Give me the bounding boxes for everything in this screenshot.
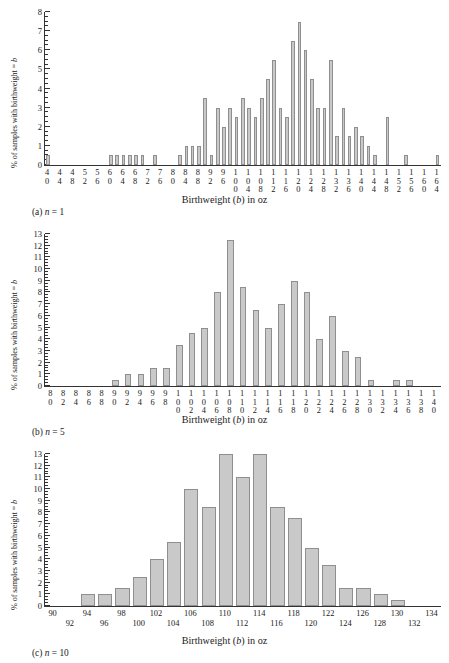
x-tick-label: 130130 <box>388 609 405 628</box>
bar <box>216 108 220 165</box>
bar <box>115 588 129 606</box>
bar <box>304 292 311 386</box>
x-tick-label: 112112 <box>233 609 250 628</box>
bar <box>373 155 377 165</box>
bar-slot <box>96 234 109 386</box>
x-tick-label: 9 8 <box>159 390 172 416</box>
y-tick-label: 1 <box>38 142 42 151</box>
bar-slot <box>114 454 131 606</box>
bar-slot <box>339 234 352 386</box>
bar-slot <box>428 234 441 386</box>
y-tick-label: 2 <box>38 358 42 367</box>
y-tick-label: 11 <box>34 253 42 262</box>
bar <box>291 41 295 165</box>
caption-c: (c) n = 10 <box>32 648 69 658</box>
bar-slot <box>166 454 183 606</box>
bar <box>185 146 189 165</box>
bar <box>178 155 182 165</box>
y-tick-label: 5 <box>38 323 42 332</box>
x-tick-label: 116116 <box>268 609 285 628</box>
bar <box>219 454 233 606</box>
x-tick-label: 118118 <box>285 609 302 628</box>
y-tick-label: 1 <box>38 370 42 379</box>
x-tick-label: 102102 <box>147 609 164 628</box>
x-tick-label: 9 4 <box>133 390 146 416</box>
bar-slot <box>200 454 217 606</box>
bar <box>335 136 339 165</box>
x-tick-label: 134134 <box>423 609 440 628</box>
panel-b: % of samples with birthweight = b 012345… <box>0 222 449 442</box>
bar <box>189 333 196 386</box>
bar <box>247 108 251 165</box>
y-tick-label: 8 <box>38 508 42 517</box>
y-tick-label: 5 <box>38 65 42 74</box>
bar <box>254 117 258 165</box>
bar-slot <box>338 454 355 606</box>
bar <box>360 136 364 165</box>
bar <box>236 477 250 606</box>
x-axis-labels-c: 9090929294949696989810010010210210410410… <box>44 609 440 628</box>
bar <box>368 380 375 386</box>
bar-slot <box>301 234 314 386</box>
bar-slot <box>275 234 288 386</box>
x-tick-label: 106106 <box>182 609 199 628</box>
x-tick-label: 1 3 2 <box>376 390 389 416</box>
x-tick-label: 1 1 2 <box>249 390 262 416</box>
y-tick-label: 6 <box>38 312 42 321</box>
bar-slot <box>390 234 403 386</box>
y-tick-label: 0 <box>38 602 42 611</box>
y-tick-label: 0 <box>38 382 42 391</box>
bar-slot <box>97 454 114 606</box>
x-tick-label: 1 0 4 <box>197 390 210 416</box>
x-tick-label: 1 1 8 <box>287 390 300 416</box>
bar <box>404 155 408 165</box>
x-tick-label: 1 2 8 <box>351 390 364 416</box>
bar <box>342 108 346 165</box>
bar <box>310 79 314 165</box>
y-tick-label: 8 <box>38 8 42 17</box>
bar-slot <box>355 454 372 606</box>
x-tick-label: 9494 <box>78 609 95 628</box>
bar <box>393 380 400 386</box>
bar <box>279 108 283 165</box>
bar <box>222 127 226 165</box>
y-tick-label: 13 <box>33 230 42 239</box>
x-tick-label: 9292 <box>61 609 78 628</box>
x-tick-label: 8 4 <box>70 390 83 416</box>
bar <box>322 565 336 606</box>
x-tick-label: 1 4 0 <box>427 390 440 416</box>
x-tick-label: 120120 <box>302 609 319 628</box>
y-tick-label: 7 <box>38 27 42 36</box>
bar-slot <box>224 234 237 386</box>
x-tick-label: 8 6 <box>82 390 95 416</box>
bar-slot <box>416 234 429 386</box>
x-tick-label: 9898 <box>113 609 130 628</box>
bar <box>176 345 183 386</box>
plot-area-a: 012345678 <box>44 12 441 166</box>
x-tick-label: 9 6 <box>146 390 159 416</box>
bar-slot <box>211 234 224 386</box>
bar <box>138 374 145 386</box>
bar-slot <box>198 234 211 386</box>
bar <box>109 155 113 165</box>
bar-slot <box>234 454 251 606</box>
bar <box>391 600 405 606</box>
panel-a: % of samples with birthweight = b 012345… <box>0 0 449 222</box>
bar <box>436 155 440 165</box>
bar-slot <box>79 454 96 606</box>
bar-slot <box>148 454 165 606</box>
bar <box>133 577 147 606</box>
bar-slot <box>321 454 338 606</box>
x-tick-label: 1 1 0 <box>236 390 249 416</box>
bar <box>329 60 333 165</box>
bar <box>386 117 390 165</box>
bar <box>278 304 285 386</box>
bar-slot <box>403 234 416 386</box>
bar-series-a <box>45 12 441 165</box>
bar-slot <box>160 234 173 386</box>
x-tick-label: 124124 <box>337 609 354 628</box>
x-tick-label: 114114 <box>251 609 268 628</box>
bar-slot <box>424 454 441 606</box>
caption-b: (b) n = 5 <box>32 427 65 437</box>
bar <box>98 594 112 606</box>
